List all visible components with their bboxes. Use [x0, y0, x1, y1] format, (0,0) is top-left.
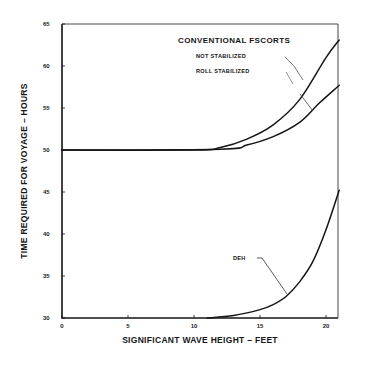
annotations: CONVENTIONAL FSCORTS NOT STABILIZED ROLL…: [178, 36, 313, 294]
x-axis-label: SIGNIFICANT WAVE HEIGHT – FEET: [122, 335, 278, 345]
label-deh: DEH: [233, 255, 246, 261]
leader-line-roll-stabilized-upper: [286, 72, 293, 84]
y-tick-label: 55: [43, 105, 50, 111]
x-tick-label: 15: [257, 323, 264, 329]
y-tick-label: 35: [43, 273, 50, 279]
label-not-stabilized: NOT STABILIZED: [196, 53, 246, 59]
y-tick-label: 50: [43, 147, 50, 153]
label-roll-stabilized: ROLL STABILIZED: [196, 68, 250, 74]
voyage-time-chart: 3035404550556065 05101520 CONVENTIONAL F…: [0, 0, 384, 366]
y-tick-label: 45: [43, 189, 50, 195]
x-tick-label: 20: [323, 323, 330, 329]
x-tick-label: 0: [60, 323, 64, 329]
x-tick-label: 10: [191, 323, 198, 329]
leader-line-roll-stabilized: [300, 94, 313, 111]
x-axis-ticks: 05101520: [60, 315, 330, 329]
y-tick-label: 65: [43, 21, 50, 27]
leader-line-deh: [257, 258, 287, 294]
curve-deh: [207, 190, 339, 318]
y-tick-label: 30: [43, 315, 50, 321]
y-tick-label: 60: [43, 63, 50, 69]
y-tick-label: 40: [43, 231, 50, 237]
group-title-conventional-escorts: CONVENTIONAL FSCORTS: [178, 36, 291, 45]
curve-roll-stabilized: [62, 85, 339, 150]
x-tick-label: 5: [126, 323, 130, 329]
data-curves: [62, 40, 339, 318]
leader-line-not-stabilized: [285, 57, 303, 80]
y-axis-label: TIME REQUIRED FOR VOYAGE – HOURS: [19, 83, 29, 259]
